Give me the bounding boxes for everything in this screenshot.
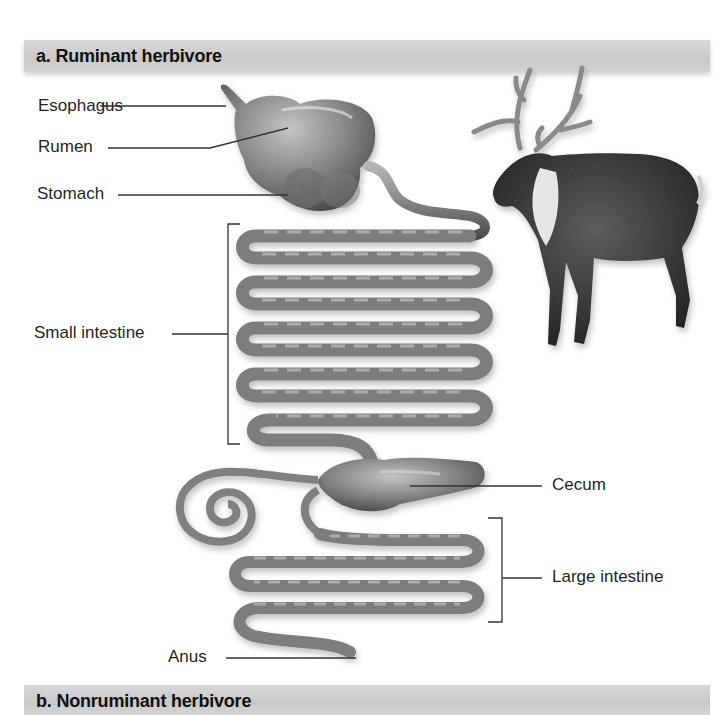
label-cecum: Cecum xyxy=(552,475,606,495)
label-rumen: Rumen xyxy=(38,137,93,157)
label-esophagus: Esophagus xyxy=(38,96,123,116)
reindeer-illustration xyxy=(474,68,702,346)
large-intestine-coils xyxy=(235,534,479,652)
label-small-intestine: Small intestine xyxy=(34,323,145,343)
small-intestine-coils xyxy=(243,236,487,462)
label-large-intestine: Large intestine xyxy=(552,567,664,587)
label-stomach: Stomach xyxy=(37,184,104,204)
cecum-organ xyxy=(318,458,485,511)
stomach-rumen-organ xyxy=(221,84,376,211)
label-anus: Anus xyxy=(168,647,207,667)
panel-b-title: b. Nonruminant herbivore xyxy=(36,691,251,712)
panel-b-header: b. Nonruminant herbivore xyxy=(24,685,710,715)
spiral-colon xyxy=(180,472,320,542)
